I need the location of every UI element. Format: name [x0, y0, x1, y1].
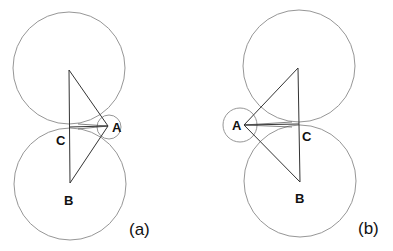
figure-b: A C B (b) — [223, 10, 379, 238]
label-B-b: B — [295, 191, 304, 206]
tangent-line-b2 — [244, 125, 292, 127]
caption-a: (a) — [129, 220, 150, 239]
figure-a: A C B (a) — [13, 12, 150, 240]
tangent-line-a1 — [78, 124, 108, 126]
label-B-a: B — [64, 193, 73, 208]
label-C-b: C — [302, 129, 312, 144]
label-C-a: C — [56, 133, 66, 148]
caption-b: (b) — [358, 219, 379, 238]
label-A-b: A — [232, 118, 242, 133]
label-A-a: A — [112, 120, 122, 135]
diagram-canvas: A C B (a) A C B (b) — [0, 0, 393, 251]
